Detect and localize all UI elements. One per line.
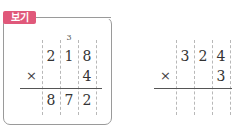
multiplicand-tens: 1	[60, 48, 78, 64]
product-tens: 7	[60, 92, 78, 108]
multiply-sign: ×	[160, 68, 171, 84]
product-ones: 2	[78, 92, 96, 108]
answer-line	[154, 88, 232, 89]
carry-digit: 3	[60, 33, 78, 43]
exercise-problem: 3 2 4 × 3	[116, 0, 232, 129]
multiply-sign: ×	[26, 68, 37, 84]
answer-hundreds-cell[interactable]	[176, 92, 194, 108]
multiplicand-ones: 8	[78, 48, 96, 64]
multiplier-ones: 4	[78, 68, 96, 84]
column-guide	[230, 40, 231, 115]
answer-ones-cell[interactable]	[212, 92, 230, 108]
badge-connector-line	[36, 17, 111, 18]
answer-tens-cell[interactable]	[194, 92, 212, 108]
example-badge: 보기	[3, 11, 36, 24]
multiplicand-ones: 4	[212, 48, 230, 64]
multiplicand-hundreds: 3	[176, 48, 194, 64]
multiplier-ones: 3	[212, 68, 230, 84]
multiplicand-tens: 2	[194, 48, 212, 64]
product-hundreds: 8	[42, 92, 60, 108]
answer-line	[20, 88, 102, 89]
column-guide	[96, 40, 97, 115]
multiplicand-hundreds: 2	[42, 48, 60, 64]
